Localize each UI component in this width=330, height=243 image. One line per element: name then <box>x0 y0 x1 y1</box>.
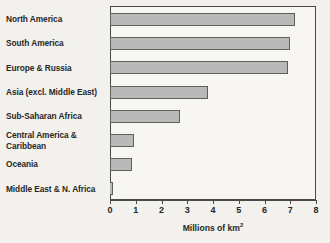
bar <box>110 37 290 50</box>
category-label: Central America & Caribbean <box>6 130 108 151</box>
x-axis-title: Millions of km2 <box>110 223 316 233</box>
bar-chart: North America South America Europe & Rus… <box>0 0 330 243</box>
category-label: South America <box>6 38 108 49</box>
x-axis-tick-label: 7 <box>280 205 300 215</box>
bar <box>110 13 295 26</box>
category-label: Oceania <box>6 159 108 170</box>
category-label: Europe & Russia <box>6 63 108 74</box>
x-axis-tick <box>239 200 240 204</box>
x-axis-tick-label: 4 <box>203 205 223 215</box>
x-axis-tick-label: 8 <box>306 205 326 215</box>
bar <box>110 182 113 195</box>
category-label: North America <box>6 14 108 25</box>
category-label: Asia (excl. Middle East) <box>6 87 108 98</box>
x-axis-title-superscript: 2 <box>240 222 243 228</box>
category-label: Sub-Saharan Africa <box>6 111 108 122</box>
bar <box>110 110 180 123</box>
x-axis-tick <box>187 200 188 204</box>
category-label: Middle East & N. Africa <box>6 184 108 195</box>
bar <box>110 86 208 99</box>
x-axis-tick <box>213 200 214 204</box>
x-axis-tick-label: 6 <box>255 205 275 215</box>
category-label-column: North America South America Europe & Rus… <box>0 0 108 201</box>
x-axis-tick <box>265 200 266 204</box>
x-axis-tick-label: 2 <box>152 205 172 215</box>
x-axis-tick <box>162 200 163 204</box>
x-axis-tick-label: 1 <box>126 205 146 215</box>
bar <box>110 158 132 171</box>
x-axis-tick <box>110 200 111 204</box>
x-axis-tick <box>290 200 291 204</box>
bars-layer <box>110 6 316 200</box>
bar <box>110 61 288 74</box>
x-axis-tick <box>136 200 137 204</box>
x-axis-tick <box>316 200 317 204</box>
x-axis-tick-label: 3 <box>177 205 197 215</box>
x-axis-tick-label: 0 <box>100 205 120 215</box>
x-axis-title-text: Millions of km <box>183 223 240 233</box>
x-axis-tick-label: 5 <box>229 205 249 215</box>
bar <box>110 134 134 147</box>
